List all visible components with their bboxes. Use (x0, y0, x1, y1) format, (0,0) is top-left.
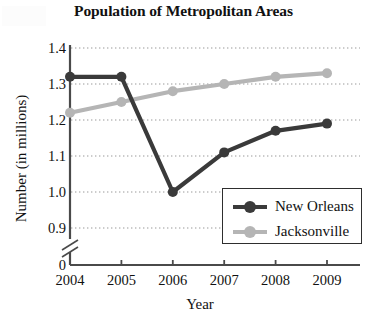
data-point-jacksonville-2009 (322, 68, 332, 78)
legend: New OrleansJacksonville (222, 188, 362, 244)
data-point-jacksonville-2006 (168, 86, 178, 96)
data-point-new-orleans-2008 (271, 126, 281, 136)
data-point-jacksonville-2008 (271, 72, 281, 82)
legend-marker-icon (233, 225, 267, 239)
data-point-jacksonville-2007 (219, 79, 229, 89)
population-line-chart: Population of Metropolitan Areas Number … (0, 0, 367, 321)
data-point-jacksonville-2005 (116, 97, 126, 107)
data-point-new-orleans-2007 (219, 147, 229, 157)
data-point-new-orleans-2009 (322, 119, 332, 129)
data-point-new-orleans-2004 (65, 72, 75, 82)
legend-label: New Orleans (275, 198, 354, 215)
legend-marker-icon (233, 200, 267, 214)
series-line-new-orleans (70, 77, 327, 192)
data-point-new-orleans-2006 (168, 187, 178, 197)
legend-label: Jacksonville (275, 223, 349, 240)
data-point-new-orleans-2005 (116, 72, 126, 82)
data-point-jacksonville-2004 (65, 108, 75, 118)
plot-area (0, 0, 367, 321)
data-series-layer (65, 68, 332, 197)
legend-item-new-orleans[interactable]: New Orleans (233, 198, 354, 215)
series-line-jacksonville (70, 73, 327, 113)
legend-item-jacksonville[interactable]: Jacksonville (233, 223, 349, 240)
